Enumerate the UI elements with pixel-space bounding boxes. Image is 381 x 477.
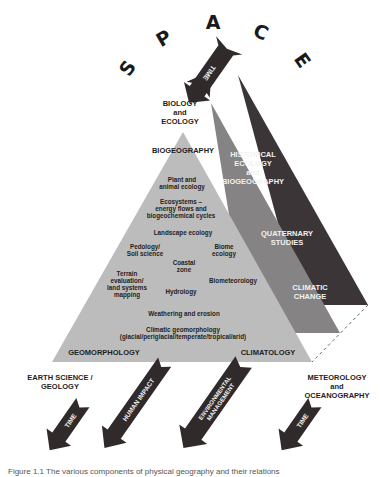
svg-text:HISTORICAL: HISTORICAL [230, 150, 276, 159]
time-arrow-left: TIME [37, 394, 95, 459]
svg-text:BIOLOGY: BIOLOGY [163, 99, 198, 108]
svg-text:Plant and: Plant and [168, 176, 196, 183]
space-letter-c: C [250, 19, 272, 45]
topic-biome-ecology: Biome ecology [212, 243, 236, 258]
svg-text:ecology: ecology [212, 250, 236, 258]
biogeography-label: BIOGEOGRAPHY [152, 146, 214, 155]
svg-text:Terrain: Terrain [117, 270, 138, 277]
biology-ecology-label: BIOLOGY and ECOLOGY [161, 99, 199, 126]
space-letter-s: S [114, 56, 140, 80]
svg-text:QUATERNARY: QUATERNARY [261, 229, 313, 238]
svg-text:BIOGEOGRAPHY: BIOGEOGRAPHY [222, 177, 284, 186]
space-letter-a: A [206, 11, 221, 33]
space-letter-e: E [290, 48, 315, 71]
meteorology-label: METEOROLOGY and OCEANOGRAPHY [304, 373, 369, 400]
geomorphology-label: GEOMORPHOLOGY [68, 348, 140, 357]
topic-landscape-ecology: Landscape ecology [154, 229, 213, 237]
svg-text:Soil science: Soil science [127, 250, 164, 257]
climatic-change-label: CLIMATIC CHANGE [292, 283, 328, 301]
topic-biometeorology: Biometeorology [209, 277, 257, 285]
svg-text:ECOLOGY: ECOLOGY [234, 159, 272, 168]
svg-text:and: and [173, 108, 187, 117]
svg-text:CLIMATIC: CLIMATIC [292, 283, 328, 292]
svg-text:zone: zone [177, 266, 192, 273]
climatology-label: CLIMATOLOGY [241, 348, 296, 357]
svg-text:Biome: Biome [214, 243, 234, 250]
svg-text:(glacial/periglacial/temperate: (glacial/periglacial/temperate/tropical/… [120, 333, 246, 341]
topic-weathering-erosion: Weathering and erosion [148, 310, 220, 318]
svg-text:Coastal: Coastal [173, 259, 196, 266]
topic-pedology: Pedology/ Soil science [127, 243, 164, 257]
svg-text:animal ecology: animal ecology [159, 183, 205, 191]
physical-geography-diagram: S P A C E TIME BIOLOGY and ECOLOGY BIOGE… [0, 0, 381, 477]
svg-text:METEOROLOGY: METEOROLOGY [307, 373, 366, 382]
earth-science-label: EARTH SCIENCE / GEOLOGY [27, 373, 93, 391]
svg-text:OCEANOGRAPHY: OCEANOGRAPHY [304, 391, 369, 400]
svg-text:STUDIES: STUDIES [271, 238, 304, 247]
svg-text:biogeochemical cycles: biogeochemical cycles [147, 212, 216, 220]
svg-text:GEOLOGY: GEOLOGY [41, 382, 79, 391]
svg-text:and: and [246, 168, 260, 177]
svg-text:EARTH SCIENCE /: EARTH SCIENCE / [27, 373, 93, 382]
time-arrow-right: TIME [269, 394, 327, 459]
svg-text:HUMAN IMPACT: HUMAN IMPACT [121, 377, 156, 422]
svg-text:ECOLOGY: ECOLOGY [161, 117, 199, 126]
svg-text:CHANGE: CHANGE [294, 292, 327, 301]
svg-text:and: and [330, 382, 344, 391]
svg-text:mapping: mapping [114, 291, 140, 299]
space-letter-p: P [152, 25, 175, 51]
topic-hydrology: Hydrology [165, 288, 197, 296]
figure-caption: Figure 1.1 The various components of phy… [8, 467, 280, 476]
svg-text:evaluation/: evaluation/ [111, 277, 144, 284]
human-impact-arrow: HUMAN IMPACT [92, 353, 177, 456]
environmental-management-arrow: ENVIRONMENTAL MANAGEMENT [170, 352, 258, 458]
